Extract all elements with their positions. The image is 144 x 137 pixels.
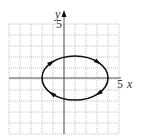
x-tick-label: 5 [117,77,123,91]
y-axis-arrow-icon [62,10,67,17]
ellipse-plot: y 5 5 x [0,0,144,137]
x-axis-label: x [126,77,133,91]
direction-arrow-icon [94,58,102,64]
y-tick-label: 5 [56,17,62,31]
direction-arrow-icon [48,91,56,97]
